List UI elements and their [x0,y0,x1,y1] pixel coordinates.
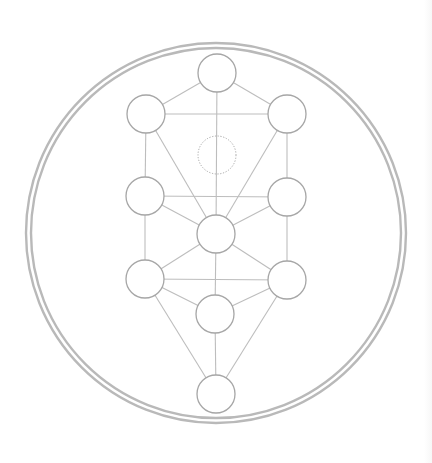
right-edge-strip [424,0,432,463]
node-chokmah [268,95,306,133]
node-yesod [196,295,234,333]
node-malkuth [197,375,235,413]
node-tiferet [197,215,235,253]
node-kether [198,54,236,92]
node-chesed [268,178,306,216]
tree-of-life-diagram [0,0,432,463]
node-netzach [268,261,306,299]
node-binah [127,95,165,133]
node-geburah [126,177,164,215]
node-hod [126,260,164,298]
